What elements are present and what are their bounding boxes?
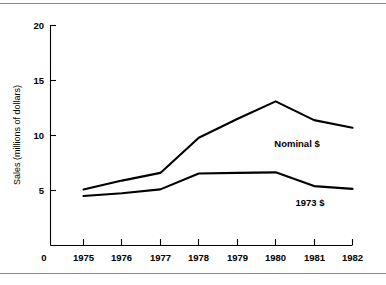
series-annotation-nominal: Nominal $ xyxy=(274,138,320,149)
x-tick-label-1977: 1977 xyxy=(150,252,171,263)
y-tick-label-5: 5 xyxy=(39,185,45,196)
x-tick-label-1975: 1975 xyxy=(73,252,95,263)
origin-zero-label: 0 xyxy=(41,252,46,263)
y-tick-label-15: 15 xyxy=(33,75,44,86)
y-tick-label-10: 10 xyxy=(33,130,44,141)
x-tick-label-1982: 1982 xyxy=(342,252,363,263)
y-axis-ticks xyxy=(51,26,57,191)
y-axis-title: Sales (millions of dollars) xyxy=(12,85,22,185)
x-tick-label-1978: 1978 xyxy=(188,252,209,263)
line-chart-plot: 20 15 10 5 0 Sales (millions of dollars)… xyxy=(0,0,386,285)
x-tick-label-1981: 1981 xyxy=(304,252,326,263)
y-tick-label-20: 20 xyxy=(33,20,44,31)
x-axis-ticks xyxy=(84,239,353,246)
x-tick-label-1979: 1979 xyxy=(227,252,248,263)
series-annotation-1973: 1973 $ xyxy=(295,197,325,208)
series-line-1973 xyxy=(84,172,353,196)
x-tick-label-1980: 1980 xyxy=(265,252,286,263)
chart-figure: 20 15 10 5 0 Sales (millions of dollars)… xyxy=(0,0,386,285)
x-tick-label-1976: 1976 xyxy=(111,252,132,263)
